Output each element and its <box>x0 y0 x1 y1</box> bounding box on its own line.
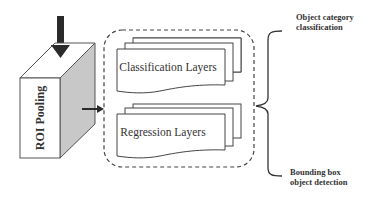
svg-text:Object category: Object category <box>296 12 355 22</box>
output-label-bottom: Bounding box object detection <box>290 167 348 187</box>
svg-text:classification: classification <box>296 22 343 32</box>
roi-pooling-label: ROI Pooling <box>33 86 47 150</box>
classification-layers-label: Classification Layers <box>119 61 217 74</box>
classification-layers-stack: Classification Layers <box>117 38 241 93</box>
roi-pooling-diagram: ROI Pooling Classification Layers Regres… <box>0 0 376 197</box>
svg-text:object detection: object detection <box>290 177 348 187</box>
output-brace <box>256 31 282 176</box>
roi-pooling-block: ROI Pooling <box>20 43 95 158</box>
regression-layers-stack: Regression Layers <box>117 104 241 158</box>
output-label-top: Object category classification <box>296 12 355 32</box>
regression-layers-label: Regression Layers <box>120 126 206 139</box>
svg-text:Bounding box: Bounding box <box>290 167 342 177</box>
